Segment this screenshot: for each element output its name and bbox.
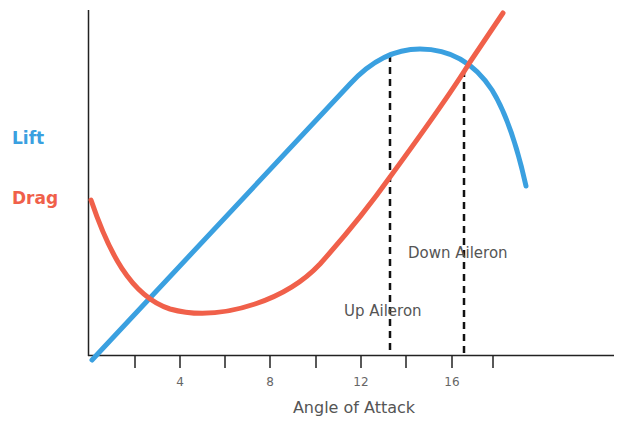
tick-label-16: 16 bbox=[444, 375, 459, 389]
tick-label-12: 12 bbox=[353, 375, 368, 389]
lift-curve bbox=[92, 49, 526, 360]
up-aileron-label: Up Aileron bbox=[344, 302, 422, 320]
drag-curve bbox=[91, 13, 503, 313]
x-axis-title: Angle of Attack bbox=[293, 398, 416, 417]
x-ticks bbox=[135, 356, 493, 368]
tick-label-4: 4 bbox=[176, 375, 184, 389]
tick-label-8: 8 bbox=[266, 375, 274, 389]
chart-plot-area: 4 8 12 16 Angle of Attack Down Aileron U… bbox=[0, 0, 627, 426]
down-aileron-label: Down Aileron bbox=[408, 244, 508, 262]
